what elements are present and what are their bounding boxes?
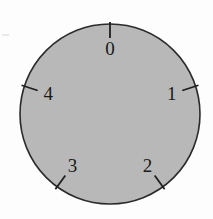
scan-artifact-speck [2, 34, 9, 36]
tick-label-0: 0 [105, 38, 115, 59]
dial-diagram: 01234 [0, 0, 213, 219]
tick-label-4: 4 [43, 83, 53, 104]
dial-figure: 01234 [0, 0, 213, 219]
tick-label-3: 3 [68, 155, 78, 176]
tick-label-2: 2 [143, 155, 153, 176]
tick-label-1: 1 [167, 83, 177, 104]
